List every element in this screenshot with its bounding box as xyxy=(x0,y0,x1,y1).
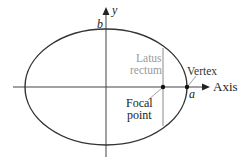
focal-label-line2: point xyxy=(127,108,152,122)
vertex-leader-line xyxy=(188,76,196,86)
focal-point-dot xyxy=(161,85,165,89)
x-axis-arrow-icon xyxy=(202,84,210,91)
latus-label-line2: rectum xyxy=(130,64,162,76)
y-axis-arrow-icon xyxy=(103,7,110,15)
y-axis-label: y xyxy=(111,3,118,17)
ellipse-diagram: y b Axis a Latus rectum Vertex Focal poi… xyxy=(0,0,244,162)
a-label: a xyxy=(189,87,195,101)
b-label: b xyxy=(97,17,103,31)
vertex-label: Vertex xyxy=(187,65,217,77)
x-axis-label: Axis xyxy=(213,79,238,94)
latus-label-line1: Latus xyxy=(136,52,162,64)
